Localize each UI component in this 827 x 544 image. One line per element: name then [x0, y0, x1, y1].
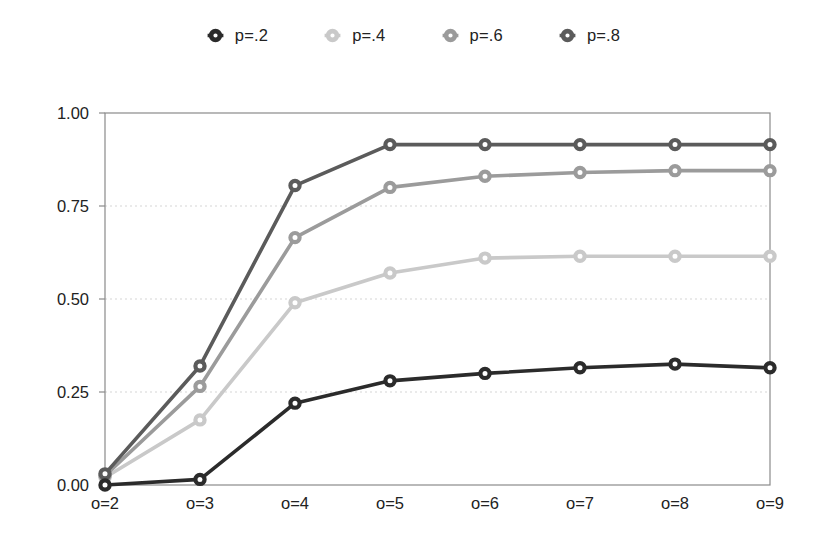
series-line — [105, 171, 770, 476]
y-axis-tick-label: 0.50 — [57, 290, 89, 308]
chart-figure: p=.2p=.4p=.6p=.8 0.000.250.500.751.00 o=… — [0, 0, 827, 544]
data-point-marker — [100, 480, 109, 489]
x-axis-tick-label: o=4 — [281, 494, 309, 512]
y-axis-tick-label: 0.25 — [57, 383, 89, 401]
x-axis-tick-label: o=2 — [91, 494, 119, 512]
data-point-marker — [765, 166, 774, 175]
x-axis-tick-labels: o=2o=3o=4o=5o=6o=7o=8o=9 — [91, 494, 784, 512]
data-point-marker — [195, 475, 204, 484]
data-point-marker — [575, 363, 584, 372]
data-point-marker — [385, 140, 394, 149]
data-point-marker — [575, 168, 584, 177]
data-point-marker — [290, 298, 299, 307]
y-axis-tick-label: 0.00 — [57, 476, 89, 494]
data-point-marker — [385, 183, 394, 192]
data-point-marker — [480, 172, 489, 181]
x-axis-tick-label: o=9 — [756, 494, 784, 512]
data-point-marker — [290, 233, 299, 242]
data-point-marker — [385, 268, 394, 277]
data-point-marker — [385, 376, 394, 385]
y-axis-tick-label: 0.75 — [57, 197, 89, 215]
data-point-marker — [290, 181, 299, 190]
data-point-marker — [670, 360, 679, 369]
data-point-marker — [195, 415, 204, 424]
data-point-marker — [765, 363, 774, 372]
data-point-marker — [670, 252, 679, 261]
x-axis-tick-label: o=6 — [471, 494, 499, 512]
data-point-marker — [765, 252, 774, 261]
data-point-marker — [480, 253, 489, 262]
line-chart-svg: 0.000.250.500.751.00 o=2o=3o=4o=5o=6o=7o… — [0, 0, 827, 544]
x-axis-tick-label: o=7 — [566, 494, 594, 512]
plot-area-wrapper: 0.000.250.500.751.00 o=2o=3o=4o=5o=6o=7o… — [0, 0, 827, 544]
x-axis-tick-label: o=8 — [661, 494, 689, 512]
data-point-marker — [575, 140, 584, 149]
data-point-marker — [195, 361, 204, 370]
data-point-marker — [575, 252, 584, 261]
y-axis-tick-labels: 0.000.250.500.751.00 — [57, 104, 89, 494]
data-point-marker — [480, 369, 489, 378]
series-p6 — [100, 166, 774, 480]
data-point-marker — [670, 166, 679, 175]
data-point-marker — [480, 140, 489, 149]
data-point-marker — [670, 140, 679, 149]
y-axis-ticks — [99, 113, 105, 485]
data-point-marker — [290, 399, 299, 408]
x-axis-tick-label: o=5 — [376, 494, 404, 512]
data-point-marker — [100, 469, 109, 478]
series-p8 — [100, 140, 774, 478]
y-axis-tick-label: 1.00 — [57, 104, 89, 122]
x-axis-tick-label: o=3 — [186, 494, 214, 512]
data-series-group — [100, 140, 774, 490]
data-point-marker — [765, 140, 774, 149]
data-point-marker — [195, 382, 204, 391]
